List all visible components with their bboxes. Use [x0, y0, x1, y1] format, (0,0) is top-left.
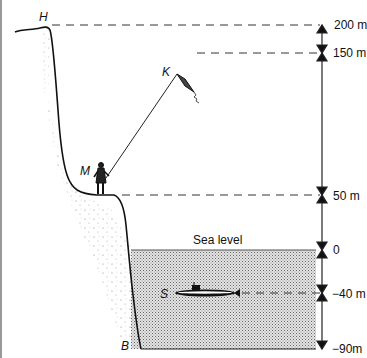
point-k-label: K — [162, 66, 170, 78]
diagram-graphics — [2, 0, 367, 358]
level-minus90-label: −90m — [332, 343, 362, 355]
point-h-label: H — [39, 11, 48, 23]
level-200-label: 200 m — [334, 19, 367, 31]
level-0-label: 0 — [333, 244, 340, 256]
sea-level-label: Sea level — [193, 234, 242, 246]
sea-area — [131, 250, 316, 349]
point-b-label: B — [121, 340, 129, 352]
level-minus40-label: −40 m — [332, 288, 366, 300]
point-m-label: M — [80, 165, 90, 177]
cliff-stipple — [42, 30, 137, 340]
level-150-label: 150 m — [333, 47, 366, 59]
kite-icon — [177, 74, 199, 103]
man-icon — [94, 163, 109, 195]
point-s-label: S — [160, 288, 168, 300]
kite-string — [106, 74, 177, 178]
level-50-label: 50 m — [333, 190, 360, 202]
